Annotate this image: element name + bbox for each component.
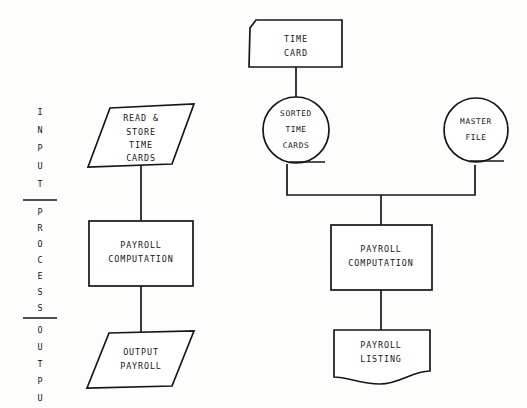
node-line-0: PAYROLL (360, 340, 402, 350)
band-input-letter-0: I (37, 107, 42, 117)
parallelogram-shape (87, 331, 194, 388)
band-label-process: P R O C E S S (37, 207, 43, 313)
node-line-1: FILE (465, 133, 486, 142)
node-line-0: PAYROLL (120, 240, 162, 250)
band-process-letter-3: C (37, 255, 42, 265)
band-input-letter-1: N (37, 125, 42, 135)
band-process-letter-0: P (37, 207, 42, 217)
node-line-1: COMPUTATION (348, 258, 413, 268)
node-line-1: LISTING (360, 354, 402, 364)
band-output-letter-3: P (37, 376, 42, 386)
node-line-0: MASTER (460, 117, 492, 126)
node-line-0: SORTED (280, 109, 312, 118)
band-process-letter-6: S (37, 303, 42, 313)
band-label-input: I N P U T (37, 107, 42, 189)
payroll-flowchart-svg: I N P U T P R O C E S S O U T P U (0, 0, 527, 408)
node-line-1: CARD (284, 48, 308, 58)
band-input-letter-4: T (37, 179, 42, 189)
magnetic-tape-circle (444, 98, 508, 162)
band-output-letter-1: U (37, 342, 42, 352)
node-line-0: TIME (284, 34, 308, 44)
node-payroll-computation-left[interactable]: PAYROLL COMPUTATION (89, 221, 193, 286)
node-sorted-time-cards[interactable]: SORTED TIME CARDS (263, 97, 329, 163)
node-line-0: PAYROLL (360, 244, 402, 254)
node-read-store-time-cards[interactable]: READ & STORE TIME CARDS (88, 104, 194, 167)
band-input-letter-3: U (37, 161, 42, 171)
flowchart-canvas: I N P U T P R O C E S S O U T P U (0, 0, 527, 408)
band-label-output: O U T P U (37, 325, 42, 403)
node-line-3: CARDS (126, 153, 156, 163)
connector-join-bus (287, 164, 475, 195)
band-process-letter-4: E (37, 271, 42, 281)
node-line-1: COMPUTATION (108, 254, 173, 264)
node-line-0: READ & (123, 113, 159, 123)
band-output-letter-0: O (37, 325, 42, 335)
node-line-2: CARDS (283, 141, 309, 150)
node-line-2: TIME (129, 140, 153, 150)
band-output-letter-2: T (37, 359, 42, 369)
band-process-letter-2: O (37, 239, 42, 249)
node-line-1: PAYROLL (120, 361, 162, 371)
band-input-letter-2: P (37, 143, 42, 153)
band-process-letter-1: R (37, 223, 43, 233)
band-process-letter-5: S (37, 287, 42, 297)
node-time-card[interactable]: TIME CARD (249, 20, 342, 67)
band-output-letter-4: U (37, 393, 42, 403)
node-line-0: OUTPUT (123, 347, 159, 357)
node-master-file[interactable]: MASTER FILE (444, 98, 508, 162)
node-line-1: STORE (126, 127, 156, 137)
punched-card-shape (249, 20, 342, 67)
node-payroll-computation-right[interactable]: PAYROLL COMPUTATION (331, 225, 432, 290)
node-output-payroll[interactable]: OUTPUT PAYROLL (87, 331, 194, 388)
node-payroll-listing[interactable]: PAYROLL LISTING (334, 330, 430, 384)
node-line-1: TIME (285, 125, 306, 134)
